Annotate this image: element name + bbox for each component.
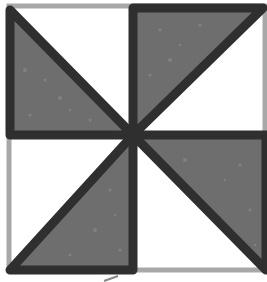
pinwheel-diagram — [0, 0, 267, 282]
stray-mark — [104, 276, 118, 281]
